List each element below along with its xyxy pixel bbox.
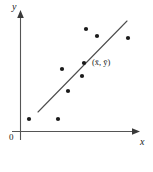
origin-label: 0	[9, 133, 14, 142]
y-axis-arrowhead	[17, 10, 24, 18]
scatter-plot-figure: y x 0 (x̄, ȳ)	[0, 0, 153, 172]
x-axis-arrowhead	[132, 128, 140, 135]
data-point	[56, 117, 60, 121]
data-point	[95, 34, 99, 38]
data-point	[27, 117, 31, 121]
mean-point-annotation: (x̄, ȳ)	[92, 58, 110, 67]
data-point	[126, 36, 130, 40]
data-point	[80, 74, 84, 78]
y-axis	[17, 10, 24, 140]
data-point	[60, 67, 64, 71]
data-point	[82, 61, 86, 65]
x-axis	[12, 128, 140, 135]
regression-line	[38, 21, 127, 112]
data-point	[66, 89, 70, 93]
x-axis-label: x	[140, 137, 144, 147]
y-axis-label: y	[12, 2, 16, 12]
plot-canvas	[0, 0, 153, 172]
data-point	[84, 27, 88, 31]
